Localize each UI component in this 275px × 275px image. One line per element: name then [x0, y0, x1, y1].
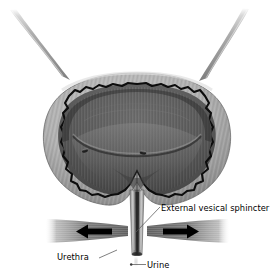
left-ureter — [10, 9, 70, 80]
leader-line-urine — [130, 263, 146, 266]
anatomy-diagram-svg — [0, 0, 275, 275]
right-ureter — [199, 8, 249, 81]
leader-line-urethra — [99, 250, 117, 258]
label-urethra: Urethra — [57, 252, 89, 262]
bladder-illustration: External vesical sphincter Urethra Urine — [0, 0, 275, 275]
label-external-vesical-sphincter: External vesical sphincter — [161, 203, 269, 213]
urethra-tube — [130, 190, 144, 256]
label-urine: Urine — [147, 260, 169, 270]
